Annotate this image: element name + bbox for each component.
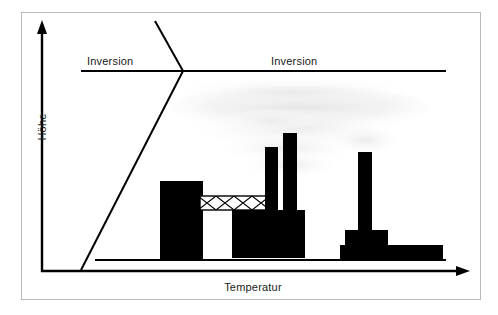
inversion-label-right: Inversion [271, 55, 317, 67]
temperature-axis [41, 266, 470, 276]
schematic-drawing [0, 0, 498, 315]
skybridge-truss [200, 196, 272, 210]
smoke-haze-layer [170, 78, 430, 177]
chimney-tall [283, 133, 297, 215]
office-block [160, 181, 203, 260]
chimney-short [265, 147, 278, 215]
plant-stack [358, 152, 372, 234]
factory-hall [232, 210, 305, 258]
figure-root: Höhe Temperatur Inversion Inversion [0, 0, 498, 315]
y-axis-label: Höhe [36, 97, 48, 157]
x-axis-label: Temperatur [203, 281, 303, 293]
plant-base [340, 245, 443, 260]
plant-midblock [345, 230, 388, 247]
inversion-label-left: Inversion [87, 55, 133, 67]
